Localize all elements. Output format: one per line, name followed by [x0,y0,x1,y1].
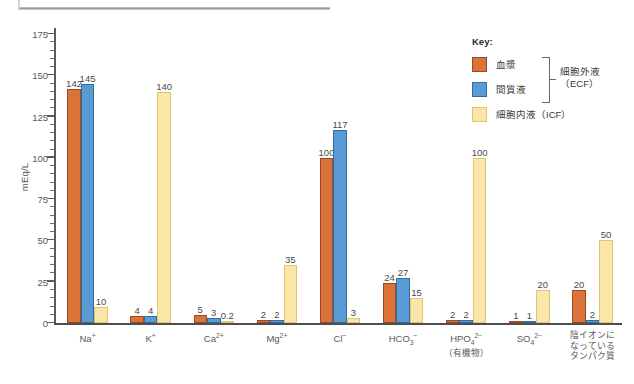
y-tick-label: 25 [18,276,48,287]
y-tick-label: 125 [18,111,48,122]
bar-value-label: 20 [574,279,585,290]
y-tick-major [47,322,54,324]
legend-swatch-icf-icon [472,107,487,122]
bar-cl-icf: 3 [347,318,361,323]
bar-mg-icf: 35 [284,265,298,323]
bar-so4-icf: 20 [536,290,550,323]
y-tick-major [47,33,54,35]
y-tick-label: 175 [18,29,48,40]
y-tick-label: 0 [18,318,48,329]
bar-value-label: 140 [156,81,172,92]
bar-value-label: 117 [332,119,347,130]
bar-value-label: 100 [319,147,335,158]
bar-ca-interstitial: 3 [207,318,221,323]
bar-k-interstitial: 4 [144,316,158,323]
bar-value-label: 2 [261,309,266,320]
bar-cl-plasma: 100 [320,158,334,323]
bar-ca-icf: 0.2 [221,321,235,323]
y-tick-major [47,115,54,117]
bar-value-label: 27 [398,267,409,278]
ecf-group-bracket-tip-icon [550,79,556,80]
bar-k-plasma: 4 [130,316,144,323]
y-tick-label: 100 [18,152,48,163]
x-label-ca: Ca2+ [204,330,224,344]
y-tick-label: 75 [18,194,48,205]
ecf-group-label-line1: 細胞外液 [560,66,600,77]
legend-label-icf: 細胞内液（ICF） [496,107,571,121]
bar-hco3-plasma: 24 [383,283,397,323]
x-label-cl: Cl− [334,330,347,344]
legend-swatch-plasma-icon [472,57,487,72]
y-tick-major [47,280,54,282]
bar-value-label: 24 [384,272,395,283]
bar-hpo4-interstitial: 2 [459,320,473,323]
bar-hpo4-plasma: 2 [446,320,460,323]
bar-ca-plasma: 5 [194,315,208,323]
legend-swatch-interstitial-icon [472,82,487,97]
y-tick-major [47,198,54,200]
legend-item-icf[interactable]: 細胞内液（ICF） [472,104,634,124]
top-divider-rule [18,7,330,10]
bar-mg-interstitial: 2 [270,320,284,323]
bar-value-label: 35 [285,254,296,265]
bar-value-label: 2 [590,309,595,320]
bar-value-label: 1 [513,310,518,321]
x-label-prot: 陰イオンになっているタンパク質 [570,330,615,362]
bar-value-label: 0.2 [221,310,234,321]
bar-cl-interstitial: 117 [333,130,347,323]
bar-value-label: 3 [351,307,356,318]
x-label-na: Na+ [79,330,95,344]
bar-so4-interstitial: 1 [523,321,537,323]
x-label-mg: Mg2+ [266,330,287,344]
ecf-group-bracket-icon [542,57,550,103]
bar-k-icf: 140 [157,92,171,323]
legend-item-interstitial[interactable]: 間質液 [472,79,634,99]
ecf-group-label: 細胞外液 （ECF） [560,66,600,90]
legend: Key: 血漿 間質液 細胞内液（ICF） 細胞外液 （ECF） [472,36,634,129]
bar-value-label: 145 [80,73,96,84]
bar-value-label: 15 [411,287,422,298]
legend-title: Key: [472,36,634,47]
top-divider-left-cap [18,0,20,9]
bar-value-label: 2 [274,309,279,320]
bar-value-label: 10 [96,296,107,307]
x-label-hpo4: HPO42−（有機物） [444,330,489,359]
ecf-group-label-line2: （ECF） [560,78,599,89]
legend-item-plasma[interactable]: 血漿 [472,54,634,74]
bar-na-interstitial: 145 [81,84,95,323]
bar-value-label: 50 [601,229,612,240]
legend-label-plasma: 血漿 [496,57,516,71]
chart-page: 0255075100125150175 mEq/L 14214510441405… [0,0,634,384]
bar-na-plasma: 142 [67,89,81,324]
bar-value-label: 1 [527,310,532,321]
bar-value-label: 2 [464,309,469,320]
legend-label-interstitial: 間質液 [496,82,526,96]
bar-prot-plasma: 20 [572,290,586,323]
y-tick-major [47,156,54,158]
bar-value-label: 4 [148,305,153,316]
x-label-so4: SO42− [517,330,542,348]
bar-value-label: 20 [538,279,549,290]
bar-hco3-interstitial: 27 [396,278,410,323]
y-tick-label: 150 [18,70,48,81]
x-label-k: K+ [145,330,155,344]
y-axis-title: mEq/L [19,162,30,190]
x-axis-category-labels: Na+K+Ca2+Mg2+Cl−HCO3−HPO42−（有機物）SO42−陰イオ… [54,330,622,384]
bar-so4-plasma: 1 [509,321,523,323]
bar-value-label: 100 [472,147,488,158]
bar-value-label: 2 [450,309,455,320]
y-tick-major [47,239,54,241]
y-tick-label: 50 [18,235,48,246]
bar-hpo4-icf: 100 [473,158,487,323]
y-tick-major [47,74,54,76]
bar-hco3-icf: 15 [410,298,424,323]
bar-value-label: 5 [198,304,203,315]
bar-prot-icf: 50 [599,240,613,323]
x-label-hco3: HCO3− [389,330,418,348]
bar-mg-plasma: 2 [257,320,271,323]
bar-value-label: 3 [211,307,216,318]
bar-value-label: 4 [135,305,140,316]
bar-prot-interstitial: 2 [586,320,600,323]
bar-na-icf: 10 [94,307,108,324]
